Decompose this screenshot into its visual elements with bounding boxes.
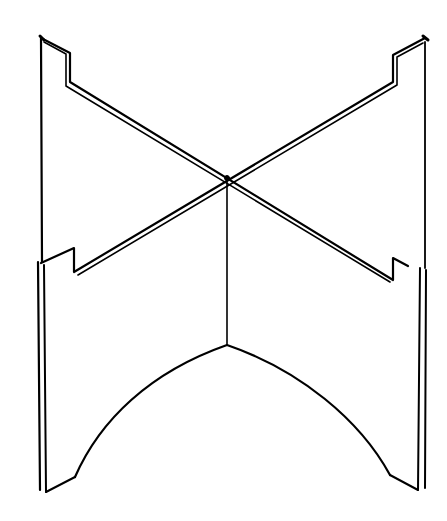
upper-left-slot-edge [40,36,408,282]
arch-cutout [75,345,390,477]
lower-left-leg [38,262,75,492]
diagram-canvas: Interlocking cross-slot stand (line draw… [0,0,447,521]
center-spine [225,176,230,346]
left-outer-edge [41,38,42,262]
lower-right-leg [390,268,426,490]
cross-stand-drawing [0,0,447,521]
upper-right-slot-edge [41,36,428,275]
